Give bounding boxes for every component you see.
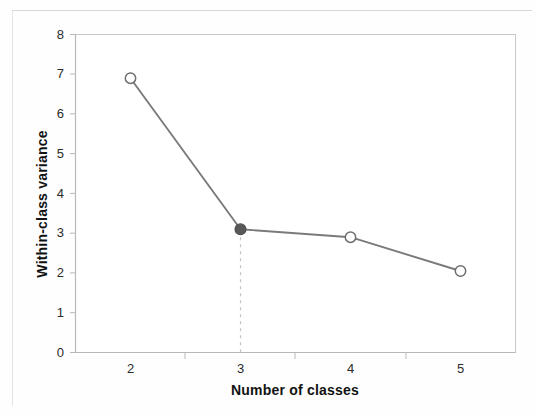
data-point-marker-highlighted[interactable] xyxy=(235,224,246,235)
x-tick-label-5: 5 xyxy=(446,361,476,376)
y-axis-title: Within-class variance xyxy=(34,104,50,304)
x-tick-label-3: 3 xyxy=(226,361,256,376)
x-axis-title: Number of classes xyxy=(75,382,515,398)
line-chart-plot xyxy=(0,0,537,417)
data-point-marker[interactable] xyxy=(345,232,355,242)
y-tick-label-8: 8 xyxy=(40,27,64,42)
y-tick-label-1: 1 xyxy=(40,305,64,320)
data-point-marker[interactable] xyxy=(125,73,135,83)
plot-area-border xyxy=(76,35,516,353)
figure-container: 0 1 2 3 4 5 6 7 8 2 3 4 5 Within-class v… xyxy=(0,0,537,417)
data-point-marker[interactable] xyxy=(455,266,465,276)
x-tick-label-4: 4 xyxy=(336,361,366,376)
x-axis-ticks xyxy=(185,353,406,360)
x-tick-label-2: 2 xyxy=(116,361,146,376)
y-tick-label-7: 7 xyxy=(40,66,64,81)
y-tick-label-0: 0 xyxy=(40,345,64,360)
y-axis-ticks xyxy=(70,35,76,353)
